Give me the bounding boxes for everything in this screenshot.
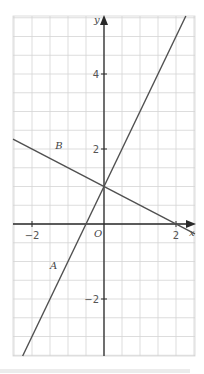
y-axis-label: y <box>93 14 100 25</box>
y-axis-arrow-icon <box>100 15 108 25</box>
line-a-label: A <box>49 260 57 271</box>
line-b-label: B <box>54 140 62 151</box>
chart: x y O −2242−2 AB <box>0 0 204 374</box>
footer-band <box>0 369 190 373</box>
x-tick-label: −2 <box>25 230 40 241</box>
origin-label: O <box>94 228 102 239</box>
x-tick-label: 2 <box>173 230 179 241</box>
y-tick-label: 4 <box>93 69 99 80</box>
y-tick-label: −2 <box>84 294 99 305</box>
y-tick-label: 2 <box>93 144 99 155</box>
